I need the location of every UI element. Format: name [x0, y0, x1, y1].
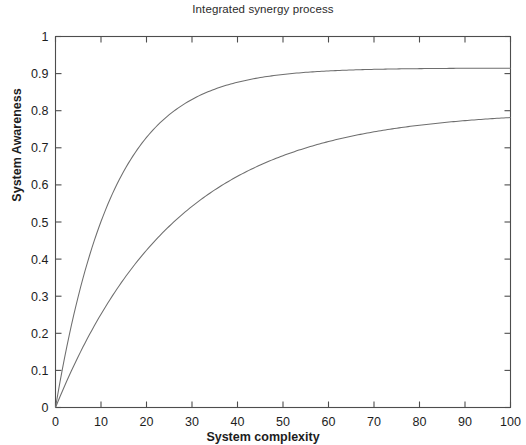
y-tick-label: 0.8: [31, 104, 48, 118]
x-tick-label: 60: [322, 415, 336, 429]
x-tick-label: 30: [185, 415, 199, 429]
y-tick-label: 0.6: [31, 178, 48, 192]
plot-area: 010203040506070809010000.10.20.30.40.50.…: [0, 0, 526, 445]
y-tick-label: 0.3: [31, 290, 48, 304]
figure-canvas: Integrated synergy process 0102030405060…: [0, 0, 526, 445]
y-tick-label: 0.5: [31, 216, 48, 230]
x-tick-label: 70: [367, 415, 381, 429]
x-tick-label: 50: [276, 415, 290, 429]
y-tick-label: 0.7: [31, 141, 48, 155]
x-tick-label: 80: [413, 415, 427, 429]
x-tick-label: 0: [52, 415, 59, 429]
plot-box: [56, 37, 511, 408]
y-tick-label: 0: [42, 401, 49, 415]
x-tick-label: 100: [500, 415, 521, 429]
lower-curve: [56, 118, 511, 408]
y-tick-label: 0.9: [31, 67, 48, 81]
x-tick-label: 40: [231, 415, 245, 429]
y-tick-label: 1: [42, 30, 49, 44]
y-axis-label: System Awareness: [10, 65, 24, 225]
x-tick-label: 10: [94, 415, 108, 429]
x-tick-label: 20: [140, 415, 154, 429]
y-tick-label: 0.4: [31, 253, 48, 267]
y-tick-label: 0.2: [31, 327, 48, 341]
upper-curve: [56, 68, 511, 407]
y-tick-label: 0.1: [31, 364, 48, 378]
x-tick-label: 90: [458, 415, 472, 429]
x-axis-label: System complexity: [0, 430, 526, 444]
